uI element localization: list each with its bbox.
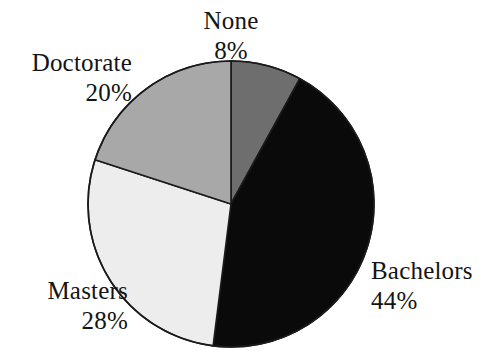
pie-label-doctorate-percent: 20% (32, 78, 132, 108)
pie-label-masters: Masters 28% (47, 276, 128, 335)
pie-label-bachelors: Bachelors 44% (371, 256, 473, 315)
pie-label-masters-name: Masters (47, 276, 128, 306)
pie-label-bachelors-name: Bachelors (371, 256, 473, 286)
pie-label-masters-percent: 28% (47, 306, 128, 336)
pie-label-bachelors-percent: 44% (371, 286, 473, 316)
pie-label-none-name: None (204, 6, 259, 36)
pie-label-doctorate-name: Doctorate (32, 48, 132, 78)
pie-label-none: None 8% (204, 6, 259, 65)
pie-label-none-percent: 8% (204, 36, 259, 66)
pie-chart-figure: None 8% Doctorate 20% Masters 28% Bachel… (0, 0, 485, 364)
pie-label-doctorate: Doctorate 20% (32, 48, 132, 107)
